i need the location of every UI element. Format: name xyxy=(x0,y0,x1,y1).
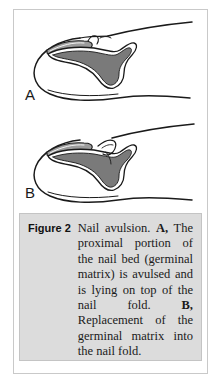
caption-lead: Nail avulsion. xyxy=(78,221,156,235)
illustration-stack: A xyxy=(14,10,207,212)
dorsal-skin-contour-a xyxy=(108,22,192,36)
caption-part-b-text: Replacement of the germinal matrix into … xyxy=(78,313,193,358)
illustration-panel-a: A xyxy=(14,10,207,110)
fold-edge-a xyxy=(100,37,111,39)
fold-inner-line-b xyxy=(102,145,113,148)
pulp-crease-b xyxy=(48,192,118,198)
caption-part-b-label: B, xyxy=(182,298,193,312)
panel-letter-b: B xyxy=(25,184,35,201)
figure-container: A xyxy=(13,9,208,374)
panel-letter-a: A xyxy=(25,86,35,103)
caption-row: Figure 2 Nail avulsion. A, The proximal … xyxy=(28,221,193,360)
nail-avulsion-diagram-b xyxy=(14,108,207,212)
figure-caption-panel: Figure 2 Nail avulsion. A, The proximal … xyxy=(19,213,202,361)
figure-caption-text: Nail avulsion. A, The proximal portion o… xyxy=(78,221,193,360)
pulp-crease-a xyxy=(48,90,118,96)
caption-part-a-label: A, xyxy=(156,221,168,235)
dorsal-skin-contour-b xyxy=(112,124,194,138)
figure-number-label: Figure 2 xyxy=(28,221,71,234)
nail-avulsion-diagram-a xyxy=(14,10,207,110)
illustration-panel-b: B xyxy=(14,108,207,212)
